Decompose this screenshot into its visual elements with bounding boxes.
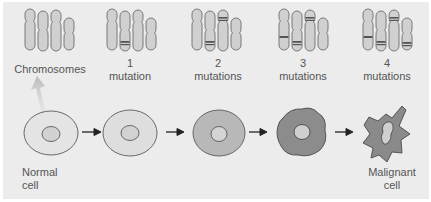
label-line: cell <box>352 179 431 192</box>
progression-arrow-icon <box>82 129 101 136</box>
cell-stage-1 <box>103 110 157 156</box>
label-line: mutations <box>352 70 422 83</box>
progression-arrow-icon <box>166 129 184 136</box>
malignant-cell <box>363 106 410 162</box>
label-line: Normal <box>22 166 72 179</box>
stage-label-3-mutations: 3 mutations <box>268 57 338 83</box>
cell-label-malignant: Malignant cell <box>352 166 431 192</box>
cell-stage-3 <box>277 108 326 156</box>
label-line: mutations <box>183 70 253 83</box>
chromosome-set-3-mutations <box>279 9 328 51</box>
stage-label-4-mutations: 4 mutations <box>352 57 422 83</box>
cell-stage-2 <box>193 110 245 156</box>
label-line: Chromosomes <box>0 63 100 76</box>
stage-label-chromosomes: Chromosomes <box>0 63 100 76</box>
chromosome-set-2-mutations <box>192 9 241 51</box>
chromosome-set-1-mutation <box>107 9 156 51</box>
progression-arrow-icon <box>249 129 267 136</box>
label-line: cell <box>22 179 72 192</box>
label-line: 1 <box>100 57 160 70</box>
stage-label-1-mutation: 1 mutation <box>100 57 160 83</box>
cell-label-normal: Normal cell <box>22 166 72 192</box>
label-line: mutations <box>268 70 338 83</box>
normal-cell <box>24 111 78 155</box>
label-line: mutation <box>100 70 160 83</box>
progression-arrow-icon <box>335 129 353 136</box>
label-line: 3 <box>268 57 338 70</box>
label-line: 4 <box>352 57 422 70</box>
chromosome-set-normal <box>25 9 74 51</box>
label-line: 2 <box>183 57 253 70</box>
label-line: Malignant <box>352 166 431 179</box>
stage-label-2-mutations: 2 mutations <box>183 57 253 83</box>
chromosome-set-4-mutations <box>363 9 412 51</box>
